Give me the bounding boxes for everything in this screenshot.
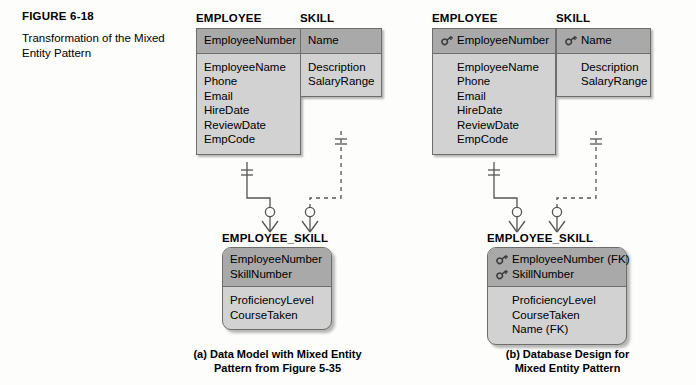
entity-body: Description SalaryRange bbox=[301, 54, 381, 96]
attribute-row: EmpCode bbox=[440, 132, 548, 147]
attribute-row: EmployeeNumber (FK) bbox=[495, 252, 619, 267]
entity-label-employeeskill-a: EMPLOYEE_SKILL bbox=[222, 232, 328, 244]
entity-employeeskill-a: EmployeeNumber SkillNumber ProficiencyLe… bbox=[222, 247, 332, 330]
attribute-row: Phone bbox=[440, 74, 548, 89]
key-icon bbox=[564, 34, 578, 46]
attribute-row: SalaryRange bbox=[308, 74, 374, 89]
panel-caption-a: (a) Data Model with Mixed Entity Pattern… bbox=[165, 347, 390, 375]
entity-header: EmployeeNumber SkillNumber bbox=[223, 248, 331, 287]
attribute-row: Name bbox=[564, 33, 643, 48]
figure-title: Transformation of the Mixed Entity Patte… bbox=[22, 31, 172, 61]
entity-header: Name bbox=[557, 29, 650, 54]
attribute-row: SkillNumber bbox=[230, 267, 324, 282]
attribute-row: EmployeeName bbox=[440, 60, 548, 75]
attribute-row: Email bbox=[440, 89, 548, 104]
entity-label-skill-b: SKILL bbox=[556, 12, 590, 24]
attribute-row: Description bbox=[308, 60, 374, 75]
attribute-row: ReviewDate bbox=[440, 118, 548, 133]
entity-header: EmployeeNumber (FK) SkillNumber bbox=[488, 248, 626, 287]
entity-header: EmployeeNumber bbox=[433, 29, 555, 54]
entity-body: Description SalaryRange bbox=[557, 54, 650, 96]
entity-body: ProficiencyLevel CourseTaken Name (FK) bbox=[488, 287, 626, 344]
attribute-row: ReviewDate bbox=[204, 118, 293, 133]
panel-caption-b: (b) Database Design for Mixed Entity Pat… bbox=[455, 347, 680, 375]
attribute-row: Email bbox=[204, 89, 293, 104]
attribute-row: EmployeeNumber bbox=[440, 33, 548, 48]
key-icon bbox=[440, 34, 454, 46]
attribute-row: CourseTaken bbox=[230, 308, 324, 323]
figure-caption: FIGURE 6-18 Transformation of the Mixed … bbox=[22, 10, 172, 61]
entity-label-employee-b: EMPLOYEE bbox=[432, 12, 498, 24]
entity-header: Name bbox=[301, 29, 381, 54]
attribute-row: ProficiencyLevel bbox=[495, 293, 619, 308]
attribute-row: SalaryRange bbox=[564, 74, 643, 89]
entity-body: EmployeeName Phone Email HireDate Review… bbox=[433, 54, 555, 154]
relationship-skill-employeeskill-a bbox=[302, 131, 347, 232]
relationship-skill-employeeskill-b bbox=[549, 131, 602, 232]
relationship-employee-employeeskill-a bbox=[241, 162, 278, 232]
entity-skill-b: Name Description SalaryRange bbox=[556, 28, 651, 97]
relationship-employee-employeeskill-b bbox=[488, 162, 525, 232]
attribute-row: Name bbox=[308, 33, 374, 48]
attribute-row: HireDate bbox=[204, 103, 293, 118]
attribute-row: Description bbox=[564, 60, 643, 75]
attribute-row: CourseTaken bbox=[495, 308, 619, 323]
entity-body: ProficiencyLevel CourseTaken bbox=[223, 287, 331, 329]
attribute-row: EmployeeNumber bbox=[230, 252, 324, 267]
entity-employeeskill-b: EmployeeNumber (FK) SkillNumber Proficie… bbox=[487, 247, 627, 345]
attribute-row: EmpCode bbox=[204, 132, 293, 147]
key-icon bbox=[495, 253, 509, 265]
key-icon bbox=[495, 268, 509, 280]
entity-skill-a: Name Description SalaryRange bbox=[300, 28, 382, 97]
entity-header: EmployeeNumber bbox=[197, 29, 300, 54]
entity-label-employeeskill-b: EMPLOYEE_SKILL bbox=[487, 232, 593, 244]
attribute-row: Phone bbox=[204, 74, 293, 89]
attribute-row: EmployeeNumber bbox=[204, 33, 293, 48]
entity-employee-b: EmployeeNumber EmployeeName Phone Email … bbox=[432, 28, 556, 155]
attribute-row: Name (FK) bbox=[495, 322, 619, 337]
attribute-row: EmployeeName bbox=[204, 60, 293, 75]
entity-body: EmployeeName Phone Email HireDate Review… bbox=[197, 54, 300, 154]
attribute-row: SkillNumber bbox=[495, 267, 619, 282]
entity-label-employee-a: EMPLOYEE bbox=[196, 12, 262, 24]
entity-label-skill-a: SKILL bbox=[300, 12, 334, 24]
figure-number: FIGURE 6-18 bbox=[22, 10, 172, 22]
attribute-row: ProficiencyLevel bbox=[230, 293, 324, 308]
attribute-row: HireDate bbox=[440, 103, 548, 118]
entity-employee-a: EmployeeNumber EmployeeName Phone Email … bbox=[196, 28, 301, 155]
